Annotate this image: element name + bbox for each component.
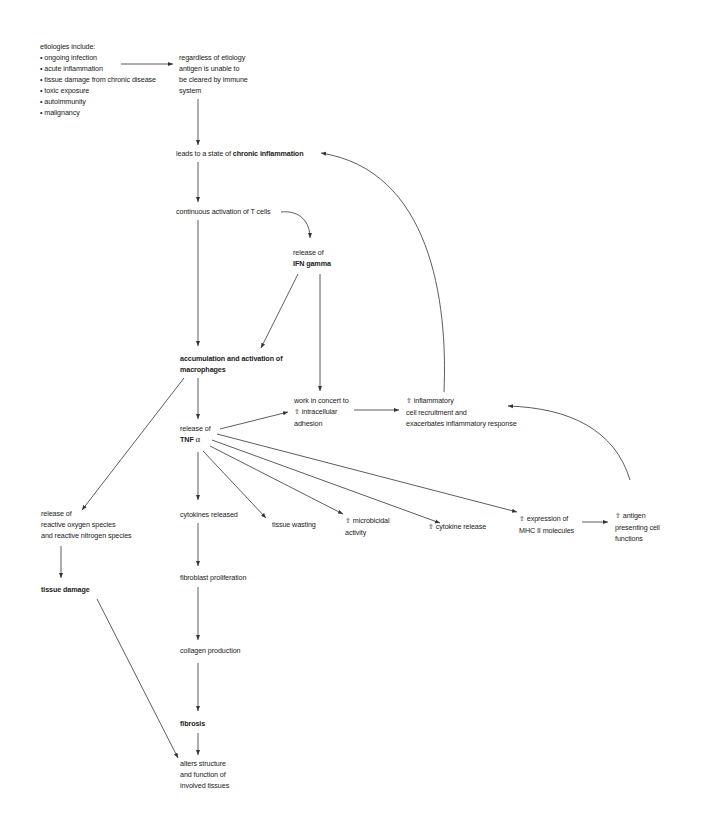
apc-line3: functions xyxy=(615,533,660,544)
fibrosis-text: fibrosis xyxy=(180,719,205,728)
mhc-line2: MHC II molecules xyxy=(519,525,574,536)
alters-line: alters structure xyxy=(180,758,229,769)
alpha-symbol: α xyxy=(196,434,201,444)
apc-line1: antigen xyxy=(623,511,646,520)
microbicidal-activity-node: ⇧microbicidal activity xyxy=(345,515,390,538)
cytokine-release-node: ⇧cytokine release xyxy=(428,521,486,533)
apc-functions-node: ⇧antigen presenting cell functions xyxy=(615,510,660,544)
alters-line: and function of xyxy=(180,769,229,780)
cytokine-release-text: cytokine release xyxy=(436,522,486,531)
edge-tnf-wasting xyxy=(203,451,266,518)
tcell-activation-node: continuous activation of T cells xyxy=(176,206,270,217)
wasting-text: tissue wasting xyxy=(272,520,316,529)
alters-structure-node: alters structure and function of involve… xyxy=(180,758,229,791)
microbicidal-line2: activity xyxy=(345,527,390,538)
antigen-line: antigen is unable to xyxy=(179,63,248,74)
antigen-line: system xyxy=(179,85,248,96)
macrophages-line2: macrophages xyxy=(180,364,282,375)
etiology-item: • autoimmunity xyxy=(40,96,156,107)
apc-line2: presenting cell xyxy=(615,522,660,533)
reactive-species-node: release of reactive oxygen species and r… xyxy=(41,508,132,541)
fibroblast-proliferation-node: fibroblast proliferation xyxy=(180,572,246,583)
etiologies-node: etiologies include: • ongoing infection … xyxy=(40,41,156,118)
tissue-damage-text: tissue damage xyxy=(41,585,90,594)
increase-arrow-icon: ⇧ xyxy=(519,515,525,523)
fibroblast-text: fibroblast proliferation xyxy=(180,573,246,582)
edge-recruitment-chronic xyxy=(321,153,445,392)
etiology-item: • ongoing infection xyxy=(40,52,156,63)
etiology-item: • tissue damage from chronic disease xyxy=(40,74,156,85)
recruitment-line2: cell recruitment and xyxy=(406,407,517,418)
inflammatory-recruitment-node: ⇧inflammatory cell recruitment and exace… xyxy=(406,395,517,429)
mhc-line1: expression of xyxy=(527,514,568,523)
mhc-expression-node: ⇧expression of MHC II molecules xyxy=(519,513,574,536)
microbicidal-line1: microbicidal xyxy=(353,516,390,525)
fibrosis-node: fibrosis xyxy=(180,718,205,729)
tnf-line1: release of xyxy=(180,423,211,434)
ros-line: reactive oxygen species xyxy=(41,519,132,530)
edge-macrophages-ros xyxy=(82,378,184,510)
increase-arrow-icon: ⇧ xyxy=(428,523,434,531)
edge-tcells-ifn xyxy=(281,212,310,238)
chronic-inflammation-node: leads to a state of chronic inflammation xyxy=(176,148,303,159)
ifn-gamma-node: release of IFN gamma xyxy=(293,247,331,269)
alters-line: involved tissues xyxy=(180,780,229,791)
etiology-item: • acute inflammation xyxy=(40,63,156,74)
macrophages-line1: accumulation and activation of xyxy=(180,353,282,364)
antigen-node: regardless of etiology antigen is unable… xyxy=(179,52,248,96)
chronic-bold: chronic inflammation xyxy=(233,149,304,158)
adhesion-line3: adhesion xyxy=(294,418,349,429)
tissue-damage-node: tissue damage xyxy=(41,584,90,595)
ifn-line1: release of xyxy=(293,247,331,258)
antigen-line: regardless of etiology xyxy=(179,52,248,63)
tcells-text: continuous activation of T cells xyxy=(176,207,270,216)
increase-arrow-icon: ⇧ xyxy=(406,397,412,405)
antigen-line: be cleared by immune xyxy=(179,74,248,85)
adhesion-line1: work in concert to xyxy=(294,395,349,406)
adhesion-line2: intracellular xyxy=(302,407,337,416)
increase-arrow-icon: ⇧ xyxy=(345,517,351,525)
ros-line: and reactive nitrogen species xyxy=(41,530,132,541)
macrophages-node: accumulation and activation of macrophag… xyxy=(180,353,282,375)
diagram-edges xyxy=(0,0,714,828)
edge-tnf-cytokine-release xyxy=(212,440,440,523)
collagen-text: collagen production xyxy=(180,646,240,655)
etiologies-header: etiologies include: xyxy=(40,41,156,52)
etiology-item: • toxic exposure xyxy=(40,85,156,96)
increase-arrow-icon: ⇧ xyxy=(294,408,300,416)
collagen-production-node: collagen production xyxy=(180,645,240,656)
tnf-bold: TNF xyxy=(180,435,196,444)
cytokines-released-node: cytokines released xyxy=(180,509,238,520)
increase-arrow-icon: ⇧ xyxy=(615,512,621,520)
edge-tnf-adhesion xyxy=(220,412,288,429)
etiology-item: • malignancy xyxy=(40,107,156,118)
edge-ifn-macrophages xyxy=(261,274,298,348)
cytokines-text: cytokines released xyxy=(180,510,238,519)
recruitment-line1: inflammatory xyxy=(414,396,454,405)
ifn-bold: IFN gamma xyxy=(293,258,331,269)
edge-tissue-damage-alters xyxy=(97,599,178,758)
chronic-prefix: leads to a state of xyxy=(176,149,233,158)
ros-line: release of xyxy=(41,508,132,519)
recruitment-line3: exacerbates inflammatory response xyxy=(406,418,517,429)
intracellular-adhesion-node: work in concert to ⇧intracellular adhesi… xyxy=(294,395,349,429)
tissue-wasting-node: tissue wasting xyxy=(272,519,316,530)
tnf-alpha-node: release of TNF α xyxy=(180,423,211,445)
edge-apc-recruitment xyxy=(508,406,630,480)
